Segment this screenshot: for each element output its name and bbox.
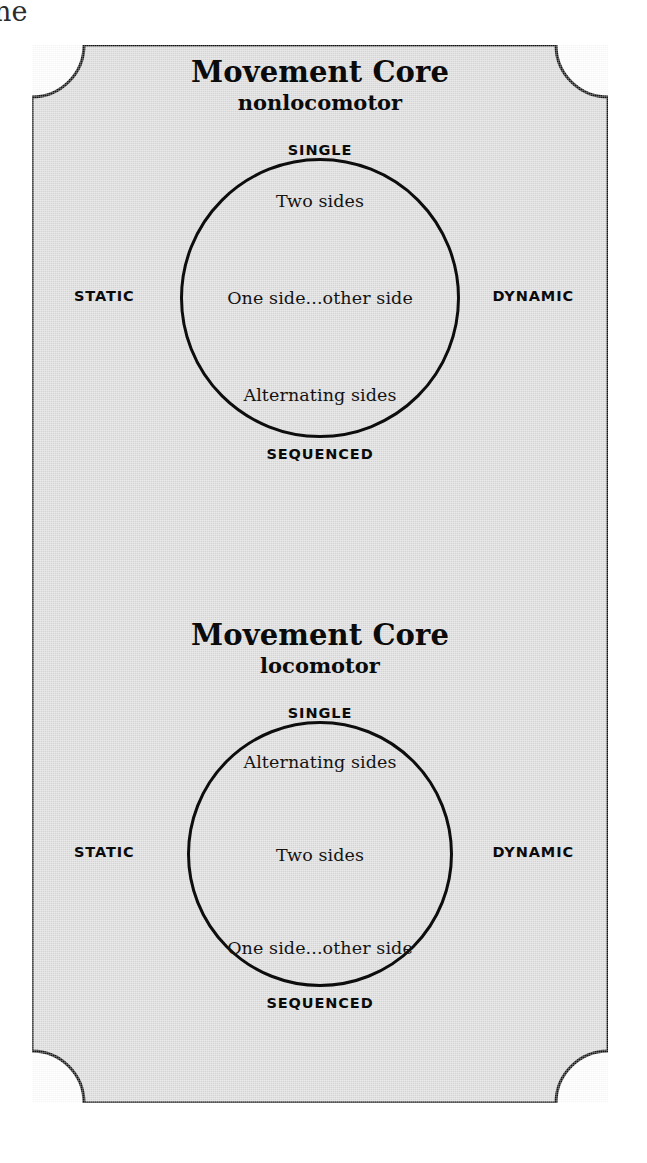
movement-core-nonlocomotor-diagram: Movement Core nonlocomotor SINGLE STATIC… xyxy=(32,57,608,462)
pole-label-dynamic-nonlocomotor: DYNAMIC xyxy=(492,288,574,304)
pole-label-sequenced-nonlocomotor: SEQUENCED xyxy=(32,446,608,462)
diagram-title-locomotor: Movement Core xyxy=(32,620,608,651)
pole-label-static-locomotor: STATIC xyxy=(74,844,135,860)
pole-label-single-locomotor: SINGLE xyxy=(32,705,608,721)
pole-label-single-nonlocomotor: SINGLE xyxy=(32,142,608,158)
page-edge-text-fragment: ne xyxy=(0,0,28,27)
circle-row-nonlocomotor: STATIC Two sides One side...other side A… xyxy=(32,158,608,440)
circle-item: Alternating sides xyxy=(243,752,396,772)
circle-item: One side...other side xyxy=(227,938,413,958)
pole-label-static-nonlocomotor: STATIC xyxy=(74,288,135,304)
movement-core-circle-nonlocomotor: Two sides One side...other side Alternat… xyxy=(180,158,460,438)
circle-item: Alternating sides xyxy=(243,385,396,405)
circle-row-locomotor: STATIC Alternating sides Two sides One s… xyxy=(32,721,608,989)
movement-core-circle-locomotor: Alternating sides Two sides One side...o… xyxy=(187,721,453,987)
diagram-frame: Movement Core nonlocomotor SINGLE STATIC… xyxy=(32,45,608,1103)
diagram-subtitle-locomotor: locomotor xyxy=(32,655,608,677)
circle-item: Two sides xyxy=(276,191,364,211)
diagram-subtitle-nonlocomotor: nonlocomotor xyxy=(32,92,608,114)
pole-label-dynamic-locomotor: DYNAMIC xyxy=(492,844,574,860)
pole-label-sequenced-locomotor: SEQUENCED xyxy=(32,995,608,1011)
movement-core-locomotor-diagram: Movement Core locomotor SINGLE STATIC Al… xyxy=(32,620,608,1011)
circle-item: One side...other side xyxy=(227,288,413,308)
circle-item: Two sides xyxy=(276,845,364,865)
diagram-title-nonlocomotor: Movement Core xyxy=(32,57,608,88)
